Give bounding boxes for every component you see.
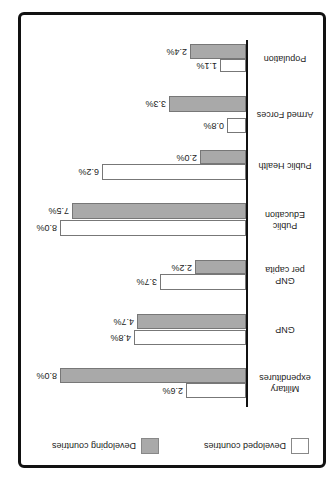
label-line: Public Health [252,160,318,171]
category-label-population: Population [252,53,318,64]
bar-developing-military [60,368,246,383]
value-developing-armed-forces: 3.3% [145,99,166,108]
category-label-military: Military expenditures [252,372,318,394]
bar-developed-population [220,59,246,72]
bar-developing-gnp-per-capita [195,260,246,274]
legend: Developed countries Developing countries [39,434,309,454]
category-label-gnp-per-capita: GNP per capita [252,264,318,286]
value-developed-public-education: 8.0% [36,223,57,232]
label-line: GNP [252,324,318,335]
value-developing-gnp: 4.7% [113,317,134,326]
bar-developed-military [186,383,246,398]
bar-developing-armed-forces [169,96,246,112]
bar-developing-public-education [72,203,246,219]
legend-item-developed: Developed countries [204,438,309,454]
bar-developed-gnp [134,330,246,345]
label-line: Education [252,209,318,220]
value-developing-gnp-per-capita: 2.2% [171,263,192,272]
label-line: GNP [252,275,318,286]
bar-developed-public-health [102,164,246,180]
value-developed-military: 2.6% [162,386,183,395]
label-line: per capita [252,264,318,275]
bar-developed-armed-forces [227,118,246,133]
category-axis [246,40,248,407]
label-line: Public [252,220,318,231]
label-line: Population [252,53,318,64]
label-line: expenditures [252,372,318,383]
legend-swatch-developing [141,438,159,454]
value-developed-gnp: 4.8% [110,333,131,342]
value-developing-public-health: 2.0% [176,153,197,162]
value-developed-public-health: 6.2% [78,167,99,176]
category-label-armed-forces: Armed Forces [252,109,318,120]
category-label-public-health: Public Health [252,160,318,171]
bar-developing-gnp [137,314,246,329]
bar-developed-gnp-per-capita [160,274,246,290]
bar-developing-population [190,44,246,59]
value-developing-population: 2.4% [166,47,187,56]
legend-label-developed: Developed countries [204,441,286,451]
label-line: Military [252,383,318,394]
label-line: Armed Forces [252,109,318,120]
bar-developing-public-health [200,150,246,164]
category-label-gnp: GNP [252,324,318,335]
legend-item-developing: Developing countries [52,438,159,454]
category-label-public-education: Public Education [252,209,318,231]
legend-label-developing: Developing countries [52,441,136,451]
chart-frame [18,12,326,468]
value-developed-gnp-per-capita: 3.7% [136,277,157,286]
value-developing-military: 8.0% [36,371,57,380]
value-developing-public-education: 7.5% [48,206,69,215]
value-developed-armed-forces: 0.8% [203,121,224,130]
legend-swatch-developed [291,438,309,454]
bar-developed-public-education [60,220,246,236]
chart-stage: Developed countries Developing countries… [0,0,336,484]
value-developed-population: 1.1% [196,61,217,70]
